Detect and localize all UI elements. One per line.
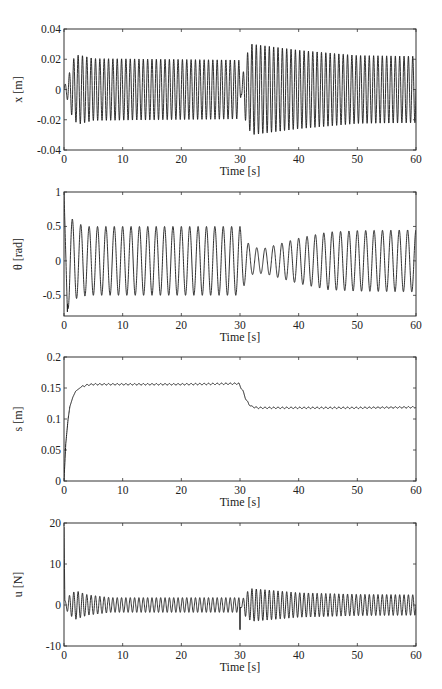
- y-tick-label: 0: [55, 84, 61, 96]
- y-tick-label: 0.5: [47, 220, 62, 232]
- y-tick-label: 20: [50, 517, 62, 529]
- x-tick-label: 60: [410, 484, 422, 496]
- x-tick-label: 50: [352, 319, 364, 331]
- x-tick-label: 20: [176, 319, 188, 331]
- x-tick-label: 0: [61, 484, 67, 496]
- y-axis-label: θ [rad]: [11, 238, 25, 270]
- y-tick-label: 10: [50, 558, 62, 570]
- data-line: [64, 383, 416, 481]
- x-tick-label: 10: [117, 649, 129, 661]
- y-tick-label: 0: [55, 255, 61, 267]
- y-tick-label: -0.5: [43, 289, 61, 301]
- x-tick-label: 20: [176, 484, 188, 496]
- y-tick-label: -0.02: [37, 114, 61, 126]
- x-tick-label: 50: [352, 649, 364, 661]
- y-axis-label: x [m]: [11, 76, 25, 102]
- x-tick-label: 10: [117, 319, 129, 331]
- x-axis-label: Time [s]: [220, 495, 261, 509]
- x-tick-label: 0: [61, 153, 67, 165]
- x-tick-label: 40: [293, 153, 305, 165]
- x-tick-label: 60: [410, 649, 422, 661]
- y-tick-label: 0.15: [41, 382, 61, 394]
- y-tick-label: -0.04: [37, 144, 61, 156]
- data-line: [64, 44, 416, 134]
- y-tick-label: 0.02: [41, 53, 61, 65]
- x-axis-label: Time [s]: [220, 660, 261, 674]
- data-line: [64, 192, 416, 312]
- y-tick-label: 0.05: [41, 444, 61, 456]
- x-tick-label: 0: [61, 649, 67, 661]
- x-tick-label: 60: [410, 319, 422, 331]
- y-tick-label: 0.04: [41, 23, 61, 35]
- x-tick-label: 50: [352, 484, 364, 496]
- y-tick-label: 0.2: [47, 351, 62, 363]
- x-tick-label: 40: [293, 484, 305, 496]
- plot-theta-angle: 0102030405060-0.500.51Time [s]θ [rad]: [11, 186, 422, 344]
- y-tick-label: 0: [55, 599, 61, 611]
- x-tick-label: 10: [117, 484, 129, 496]
- x-tick-label: 20: [176, 649, 188, 661]
- x-tick-label: 40: [293, 319, 305, 331]
- x-tick-label: 20: [176, 153, 188, 165]
- axes-box: [64, 192, 416, 316]
- x-tick-label: 0: [61, 319, 67, 331]
- x-tick-label: 50: [352, 153, 364, 165]
- y-tick-label: 0: [55, 475, 61, 487]
- x-tick-label: 40: [293, 649, 305, 661]
- x-axis-label: Time [s]: [220, 330, 261, 344]
- axes-box: [64, 357, 416, 481]
- plot-u-control-force: 0102030405060-1001020Time [s]u [N]: [11, 517, 422, 674]
- x-tick-label: 10: [117, 153, 129, 165]
- y-tick-label: 1: [55, 186, 61, 198]
- y-axis-label: s [m]: [11, 407, 25, 432]
- y-axis-label: u [N]: [11, 572, 25, 598]
- x-tick-label: 60: [410, 153, 422, 165]
- x-axis-label: Time [s]: [220, 164, 261, 178]
- y-tick-label: 0.1: [47, 413, 62, 425]
- figure: 0102030405060-0.04-0.0200.020.04Time [s]…: [0, 0, 442, 689]
- plot-s-sliding-surface: 010203040506000.050.10.150.2Time [s]s [m…: [11, 351, 422, 509]
- y-tick-label: -10: [46, 640, 62, 652]
- data-line: [64, 527, 416, 630]
- plot-x-position: 0102030405060-0.04-0.0200.020.04Time [s]…: [11, 23, 422, 178]
